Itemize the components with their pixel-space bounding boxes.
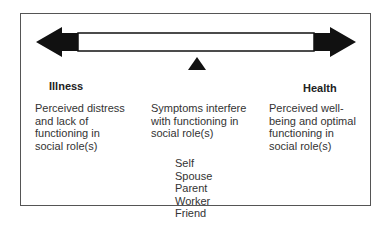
health-label: Health bbox=[303, 82, 337, 94]
illness-description: Perceived distress and lack of functioni… bbox=[35, 102, 125, 152]
role-item: Self bbox=[175, 157, 212, 170]
role-item: Worker bbox=[175, 195, 212, 208]
roles-list: Self Spouse Parent Worker Friend bbox=[175, 157, 212, 220]
health-description: Perceived well- being and optimal functi… bbox=[269, 102, 356, 152]
role-item: Friend bbox=[175, 207, 212, 220]
role-item: Spouse bbox=[175, 170, 212, 183]
role-item: Parent bbox=[175, 182, 212, 195]
illness-label: Illness bbox=[49, 80, 83, 92]
middle-description: Symptoms interfere with functioning in s… bbox=[151, 102, 246, 140]
fulcrum-triangle-icon bbox=[188, 57, 206, 70]
